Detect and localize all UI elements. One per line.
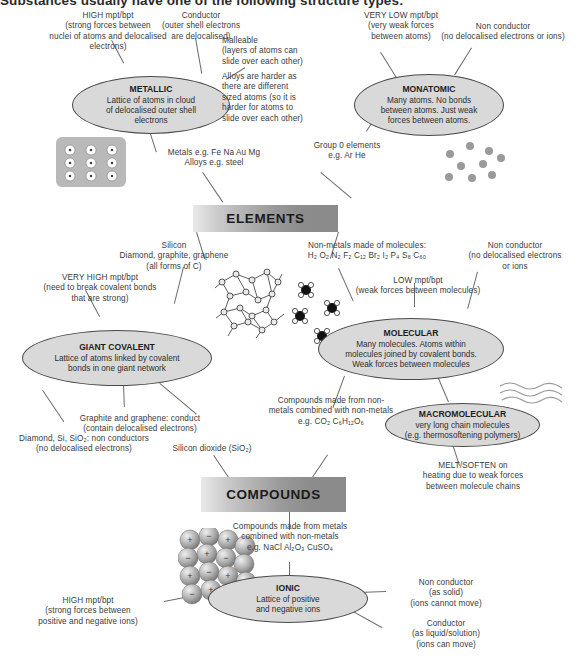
svg-text:−: − (185, 553, 190, 563)
banner-elements-label: ELEMENTS (226, 211, 304, 226)
svg-text:+: + (187, 535, 192, 545)
annotation-monatomic-non-conductor: Non conductor (no delocalised electrons … (430, 22, 576, 43)
annotation-compounds-from-metals: Compounds made from metals combined with… (203, 522, 377, 553)
svg-text:+: + (225, 571, 230, 581)
connector-line (159, 383, 196, 415)
connector-line (202, 172, 223, 202)
annotation-ionic-high-mpt: HIGH mpt/bpt (strong forces between posi… (12, 596, 164, 627)
annotation-ionic-non-conductor: Non conductor (as solid) (ions cannot mo… (386, 578, 506, 609)
node-giant-covalent-body: Lattice of atoms linked by covalent bond… (54, 354, 179, 374)
giant-covalent-network-image (212, 264, 288, 346)
connector-line (454, 47, 472, 75)
annotation-diamond-non-conductors: Diamond, Si, SiO₂: non conductors (no de… (8, 434, 160, 455)
page-title: Substances usually have one of the follo… (0, 0, 578, 8)
node-molecular[interactable]: MOLECULAR Many molecules. Atoms within m… (318, 318, 504, 380)
annotation-molecular-low-mpt: LOW mpt/bpt (weak forces between molecul… (330, 276, 506, 297)
monatomic-atoms-image (440, 140, 510, 189)
node-monatomic-body: Many atoms. No bonds between atoms. Just… (381, 96, 477, 127)
annotation-metallic-alloys: Alloys are harder as there are different… (222, 72, 332, 124)
node-molecular-body: Many molecules. Atoms within molecules j… (345, 340, 477, 371)
annotation-silicon-dioxide: Silicon dioxide (SiO₂) (163, 444, 261, 454)
node-macromolecular-title: MACROMOLECULAR (419, 409, 506, 420)
node-giant-covalent-title: GIANT COVALENT (79, 342, 155, 353)
annotation-graphite-graphene-conduct: Graphite and graphene: conduct (contain … (58, 414, 222, 435)
annotation-nonmetals-formulae: H₂ O₂ N₂ F₂ C₁₂ Br₂ I₂ P₄ S₈ C₆₀ (272, 251, 462, 261)
node-metallic[interactable]: METALLIC Lattice of atoms in cloud of de… (72, 76, 230, 134)
annotation-macromolecular-melt: MELT/SOFTEN on heating due to weak force… (398, 461, 548, 492)
annotation-giant-very-high-mpt: VERY HIGH mpt/bpt (need to break covalen… (10, 273, 190, 304)
svg-text:−: − (206, 567, 211, 577)
node-ionic-body: Lattice of positive and negative ions (256, 595, 320, 615)
metal-lattice-image (56, 137, 126, 191)
annotation-nonmetals-molecules-label: Non-metals made of molecules: (272, 241, 462, 251)
connector-line (437, 376, 449, 402)
banner-compounds-label: COMPOUNDS (226, 487, 321, 502)
node-macromolecular[interactable]: MACROMOLECULAR very long chain molecules… (385, 403, 540, 447)
node-metallic-title: METALLIC (130, 84, 173, 95)
node-macromolecular-body: very long chain molecules (e.g. thermoso… (405, 421, 521, 441)
annotation-metallic-malleable: Malleable (layers of atoms can slide ove… (222, 36, 332, 67)
node-metallic-body: Lattice of atoms in cloud of delocalised… (106, 96, 196, 127)
svg-text:−: − (223, 553, 228, 563)
banner-compounds: COMPOUNDS (201, 477, 346, 512)
node-monatomic-title: MONATOMIC (402, 84, 455, 95)
banner-elements: ELEMENTS (193, 205, 338, 232)
annotation-ionic-conductor: Conductor (as liquid/solution) (ions can… (386, 619, 506, 650)
svg-text:−: − (189, 589, 194, 599)
annotation-compounds-from-nonmetals: Compounds made from non- metals combined… (266, 396, 396, 427)
node-ionic-title: IONIC (276, 583, 300, 594)
annotation-metals-examples: Metals e.g. Fe Na Au Mg Alloys e.g. stee… (136, 148, 292, 169)
node-giant-covalent[interactable]: GIANT COVALENT Lattice of atoms linked b… (22, 330, 212, 386)
annotation-silicon-carbon-forms: Silicon Diamond, graphite, graphene (all… (108, 241, 240, 272)
svg-text:+: + (187, 571, 192, 581)
node-monatomic[interactable]: MONATOMIC Many atoms. No bonds between a… (354, 74, 504, 136)
annotation-molecular-non-conductor: Non conductor (no delocalised electrons … (454, 241, 576, 272)
structure-types-diagram: Substances usually have one of the follo… (0, 0, 578, 659)
node-molecular-title: MOLECULAR (384, 328, 439, 339)
node-ionic[interactable]: IONIC Lattice of positive and negative i… (208, 575, 368, 623)
connector-line (123, 383, 125, 407)
annotation-group0-examples: Group 0 elements e.g. Ar He (297, 141, 397, 162)
connector-line (380, 52, 397, 78)
connector-line (320, 172, 351, 198)
